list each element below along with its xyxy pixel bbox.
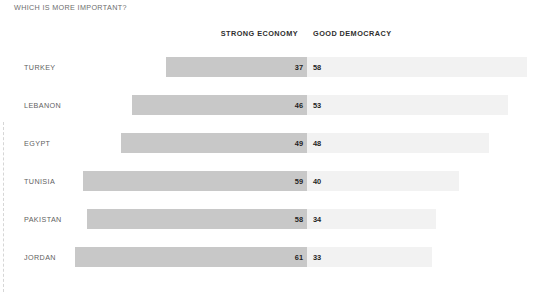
bar-strong-economy <box>75 247 307 267</box>
bar-good-democracy <box>307 247 432 267</box>
chart-row: LEBANON4653 <box>0 90 537 120</box>
row-label-jordan: JORDAN <box>24 253 56 262</box>
value-strong-economy: 58 <box>295 215 303 224</box>
value-strong-economy: 37 <box>295 63 303 72</box>
value-good-democracy: 53 <box>313 101 321 110</box>
bar-strong-economy <box>121 133 307 153</box>
chart-container: WHICH IS MORE IMPORTANT? STRONG ECONOMY … <box>0 0 537 295</box>
bar-strong-economy <box>83 171 307 191</box>
bar-good-democracy <box>307 209 436 229</box>
row-label-egypt: EGYPT <box>24 139 50 148</box>
bar-strong-economy <box>166 57 307 77</box>
value-strong-economy: 49 <box>295 139 303 148</box>
value-good-democracy: 48 <box>313 139 321 148</box>
bar-good-democracy <box>307 57 527 77</box>
value-strong-economy: 46 <box>295 101 303 110</box>
chart-row: PAKISTAN5834 <box>0 204 537 234</box>
chart-row: JORDAN6133 <box>0 242 537 272</box>
chart-row: TUNISIA5940 <box>0 166 537 196</box>
chart-row: EGYPT4948 <box>0 128 537 158</box>
bar-good-democracy <box>307 171 459 191</box>
value-strong-economy: 59 <box>295 177 303 186</box>
value-strong-economy: 61 <box>295 253 303 262</box>
row-label-turkey: TURKEY <box>24 63 56 72</box>
row-label-tunisia: TUNISIA <box>24 177 55 186</box>
row-label-lebanon: LEBANON <box>24 101 61 110</box>
chart-rows: TURKEY3758LEBANON4653EGYPT4948TUNISIA594… <box>0 0 537 295</box>
bar-strong-economy <box>87 209 307 229</box>
value-good-democracy: 33 <box>313 253 321 262</box>
value-good-democracy: 34 <box>313 215 321 224</box>
row-label-pakistan: PAKISTAN <box>24 215 62 224</box>
value-good-democracy: 40 <box>313 177 321 186</box>
bar-good-democracy <box>307 133 489 153</box>
value-good-democracy: 58 <box>313 63 321 72</box>
chart-row: TURKEY3758 <box>0 52 537 82</box>
bar-good-democracy <box>307 95 508 115</box>
bar-strong-economy <box>132 95 307 115</box>
